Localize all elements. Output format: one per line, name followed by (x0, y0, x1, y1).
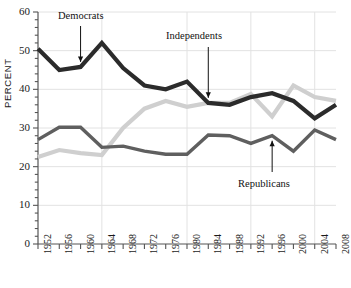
annotation-arrowhead (206, 92, 211, 98)
annotation-democrats: Democrats (58, 10, 103, 21)
annotation-republicans: Republicans (238, 178, 290, 189)
annotation-independents: Independents (166, 30, 222, 41)
annotation-arrowhead (270, 141, 275, 147)
annotation-arrowhead (78, 56, 83, 62)
